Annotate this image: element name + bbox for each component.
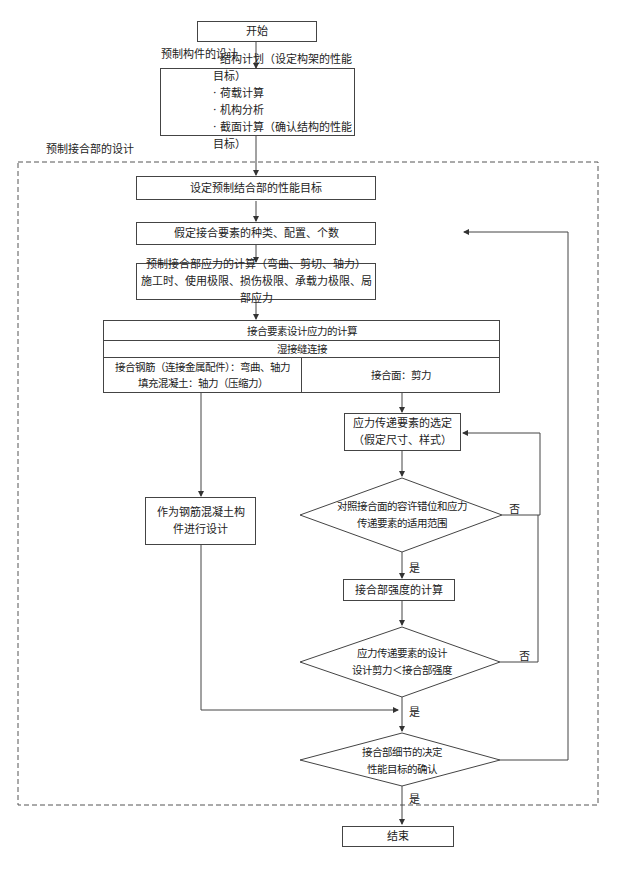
member-design-box: · 结构计划（设定构架的性能目标） · 荷载计算 · 机构分析 · 截面计算（确… <box>160 68 355 136</box>
joint-strength-calc-box: 接合部强度的计算 <box>343 579 455 601</box>
assume-elements-label: 假定接合要素的种类、配置、个数 <box>174 225 339 242</box>
member-design-step: · 荷载计算 <box>213 85 354 102</box>
left-cell-line1: 接合钢筋（连接金属配件）：弯曲、轴力 <box>115 359 290 375</box>
end-terminal: 结束 <box>342 826 454 847</box>
design-stress-table: 接合要素设计应力的计算 湿接缝连接 接合钢筋（连接金属配件）：弯曲、轴力 填充混… <box>103 320 500 393</box>
member-design-step: · 机构分析 <box>213 102 354 119</box>
joint-stress-calc-box: 预制接合部应力的计算（弯曲、剪切、轴力） 施工时、使用极限、损伤极限、承载力极限… <box>136 263 376 300</box>
no-label-1: 否 <box>509 503 520 516</box>
table-subheader: 湿接缝连接 <box>104 341 499 358</box>
joint-strength-calc-label: 接合部强度的计算 <box>355 582 443 599</box>
left-cell-line2: 填充混凝土：轴力（压缩力） <box>138 375 268 391</box>
joint-stress-calc-line1: 预制接合部应力的计算（弯曲、剪切、轴力） <box>146 256 366 273</box>
set-performance-target-box: 设定预制结合部的性能目标 <box>136 176 376 200</box>
set-performance-target-label: 设定预制结合部的性能目标 <box>190 180 322 197</box>
table-left-cell: 接合钢筋（连接金属配件）：弯曲、轴力 填充混凝土：轴力（压缩力） <box>104 358 302 392</box>
yes-label-2: 是 <box>409 706 420 719</box>
no-label-2: 否 <box>519 650 530 663</box>
start-terminal: 开始 <box>197 21 317 42</box>
section-label-joint-design: 预制接合部的设计 <box>46 143 134 156</box>
start-label: 开始 <box>246 23 268 40</box>
flowchart: 开始 预制构件的设计 · 结构计划（设定构架的性能目标） · 荷载计算 · 机构… <box>0 0 618 876</box>
select-transfer-element-box: 应力传递要素的选定 （假定尺寸、样式） <box>344 413 461 451</box>
decision-check-range-line1: 对照接合面的容许错位和应力 <box>310 498 494 515</box>
decision-design-shear: 应力传递要素的设计 设计剪力＜接合部强度 <box>320 645 484 679</box>
table-header: 接合要素设计应力的计算 <box>104 321 499 341</box>
decision-check-range-line2: 传递要素的适用范围 <box>310 515 494 532</box>
table-right-cell: 接合面：剪力 <box>302 358 499 392</box>
yes-label-3: 是 <box>409 793 420 806</box>
select-transfer-line1: 应力传递要素的选定 <box>353 415 452 432</box>
decision-detail-line1: 接合部细节的决定 <box>330 744 474 761</box>
joint-stress-calc-line2: 施工时、使用极限、损伤极限、承载力极限、局部应力 <box>137 273 375 307</box>
rc-member-design-box: 作为钢筋混凝土构 件进行设计 <box>145 497 256 545</box>
decision-design-shear-line2: 设计剪力＜接合部强度 <box>320 662 484 679</box>
decision-design-shear-line1: 应力传递要素的设计 <box>320 645 484 662</box>
rc-design-line2: 件进行设计 <box>173 521 228 538</box>
yes-label-1: 是 <box>409 562 420 575</box>
member-design-steps: · 结构计划（设定构架的性能目标） · 荷载计算 · 机构分析 · 截面计算（确… <box>213 51 354 153</box>
member-design-step: · 截面计算（确认结构的性能目标） <box>213 119 354 153</box>
decision-check-range: 对照接合面的容许错位和应力 传递要素的适用范围 <box>310 498 494 532</box>
decision-detail-confirm: 接合部细节的决定 性能目标的确认 <box>330 744 474 778</box>
end-label: 结束 <box>387 828 409 845</box>
select-transfer-line2: （假定尺寸、样式） <box>353 432 452 449</box>
member-design-step: · 结构计划（设定构架的性能目标） <box>213 51 354 85</box>
assume-elements-box: 假定接合要素的种类、配置、个数 <box>136 222 376 245</box>
decision-detail-line2: 性能目标的确认 <box>330 761 474 778</box>
rc-design-line1: 作为钢筋混凝土构 <box>157 504 245 521</box>
